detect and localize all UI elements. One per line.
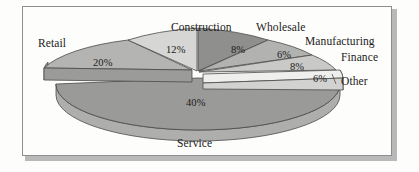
slice-label-finance: Finance <box>341 52 378 64</box>
slice-label-wholesale: Wholesale <box>256 22 305 34</box>
slice-label-service: Service <box>177 138 212 150</box>
slice-label-manufacturing: Manufacturing <box>305 36 375 48</box>
slice-value-retail: 20% <box>93 58 113 69</box>
slice-value-construction: 12% <box>166 45 186 56</box>
slice-value-finance: 8% <box>290 62 304 73</box>
slice-label-other: Other <box>341 76 368 88</box>
pie-chart-figure: Construction Wholesale Manufacturing Fin… <box>0 0 419 172</box>
slice-label-retail: Retail <box>38 38 66 50</box>
slice-value-wholesale: 8% <box>231 45 245 56</box>
chart-plot-area: Construction Wholesale Manufacturing Fin… <box>0 0 419 172</box>
slice-value-manufacturing: 6% <box>277 50 291 61</box>
slice-label-construction: Construction <box>171 22 232 34</box>
slice-value-other: 6% <box>313 74 327 85</box>
slice-value-service: 40% <box>186 98 206 109</box>
